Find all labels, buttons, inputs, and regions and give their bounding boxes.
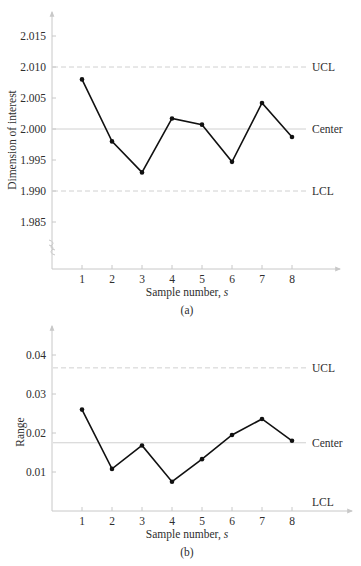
data-point	[110, 467, 115, 472]
data-point	[140, 170, 145, 175]
control-label-ucl: UCL	[312, 61, 335, 73]
data-point	[230, 433, 235, 438]
data-point	[170, 479, 175, 484]
control-label-ucl: UCL	[312, 362, 335, 374]
x-tick-label: 1	[79, 273, 85, 285]
data-point	[170, 116, 175, 121]
y-tick-label: 2.005	[20, 92, 46, 104]
data-point	[200, 457, 205, 462]
x-tick-label: 4	[169, 273, 175, 285]
caption-b: (b)	[180, 546, 194, 559]
x-tick-label: 6	[229, 273, 235, 285]
chart-a: UCLCenterLCL 2.0152.0102.0052.0001.9951.…	[6, 12, 343, 317]
data-point	[140, 443, 145, 448]
x-tick-label: 8	[289, 515, 295, 527]
y-tick-label: 0.03	[26, 388, 46, 400]
y-tick-label: 1.990	[20, 185, 46, 197]
x-axis-title-b: Sample number, s	[146, 528, 229, 541]
control-lines-a: UCLCenterLCL	[53, 61, 343, 197]
control-label-lcl: LCL	[312, 496, 334, 508]
control-lines-b: UCLCenterLCL	[53, 362, 343, 508]
data-point	[80, 407, 85, 412]
y-tick-label: 2.015	[20, 30, 46, 42]
caption-a: (a)	[181, 304, 194, 317]
y-ticks-a: 2.0152.0102.0052.0001.9951.9901.985	[20, 30, 56, 228]
x-tick-label: 2	[109, 515, 115, 527]
x-tick-label: 2	[109, 273, 115, 285]
x-tick-label: 1	[79, 515, 85, 527]
x-ticks-b: 12345678	[79, 507, 295, 527]
data-point	[200, 122, 205, 127]
series-b	[80, 407, 295, 484]
x-tick-label: 5	[199, 273, 205, 285]
chart-b: UCLCenterLCL 0.040.030.020.01 12345678 R…	[14, 326, 352, 559]
x-tick-label: 8	[289, 273, 295, 285]
x-tick-label: 3	[139, 515, 145, 527]
y-tick-label: 2.000	[20, 123, 46, 135]
data-point	[230, 160, 235, 165]
y-ticks-b: 0.040.030.020.01	[26, 349, 56, 478]
y-tick-label: 2.010	[20, 61, 46, 73]
control-label-lcl: LCL	[312, 185, 334, 197]
control-label-center: Center	[312, 123, 343, 135]
y-tick-label: 0.02	[26, 427, 46, 439]
x-tick-label: 7	[259, 515, 265, 527]
x-tick-label: 5	[199, 515, 205, 527]
data-point	[260, 417, 265, 422]
y-axis-title-b: Range	[14, 417, 27, 446]
data-point	[290, 135, 295, 140]
control-charts: UCLCenterLCL 2.0152.0102.0052.0001.9951.…	[0, 0, 361, 566]
data-point	[290, 439, 295, 444]
data-point	[110, 139, 115, 144]
y-tick-label: 0.04	[26, 349, 46, 361]
x-tick-label: 6	[229, 515, 235, 527]
x-tick-label: 3	[139, 273, 145, 285]
y-axis-title-a: Dimension of interest	[6, 89, 18, 189]
data-point	[260, 101, 265, 106]
data-point	[80, 77, 85, 82]
x-tick-label: 7	[259, 273, 265, 285]
control-label-center: Center	[312, 437, 343, 449]
y-tick-label: 0.01	[26, 466, 46, 478]
series-a	[80, 77, 295, 175]
data-line	[82, 79, 292, 172]
y-tick-label: 1.985	[20, 216, 46, 228]
y-tick-label: 1.995	[20, 154, 46, 166]
x-ticks-a: 12345678	[79, 265, 295, 285]
x-tick-label: 4	[169, 515, 175, 527]
x-axis-title-a: Sample number, s	[146, 286, 229, 299]
